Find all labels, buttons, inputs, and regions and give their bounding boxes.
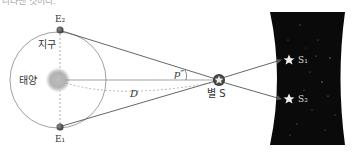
parallax-angle-arc [185,70,187,80]
background-star-field [270,12,345,145]
sightline-e1-to-star [62,80,219,126]
projection-arrow-s1 [222,60,281,78]
label-earth: 지구 [38,39,56,50]
label-star-s: 별 S [207,88,226,99]
label-e1: E₁ [55,134,65,144]
earth-e2-icon [57,27,64,34]
earth-e1-icon [57,124,64,131]
star-s-icon [213,74,225,86]
label-parallax-angle: p″ [174,68,184,79]
projection-arrow-s2 [222,82,281,99]
label-s2: S₂ [298,94,308,104]
label-s1: S₁ [298,55,308,65]
stellar-parallax-diagram: E₂ E₁ 지구 태양 p″ D 별 S S₁ S₂ [0,0,359,158]
distance-dashed-curve [66,82,216,91]
label-distance: D [129,88,138,99]
label-e2: E₂ [55,14,66,24]
label-sun: 태양 [19,75,37,86]
sightline-e2-to-star [62,31,219,80]
